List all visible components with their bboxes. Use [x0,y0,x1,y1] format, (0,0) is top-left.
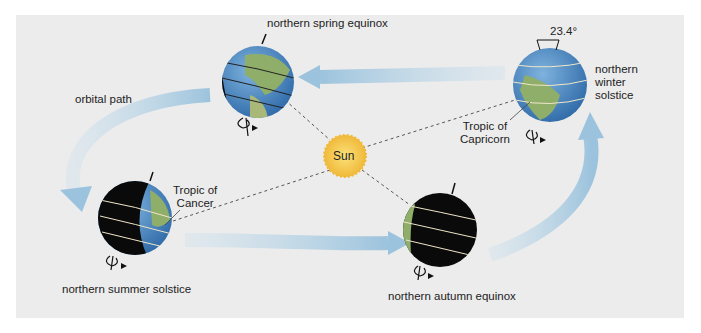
label-orbital-path: orbital path [75,93,132,106]
label-summer-solstice: northern summer solstice [62,283,191,296]
label-autumn-equinox: northern autumn equinox [388,290,516,303]
label-tropic-cancer: Tropic of Cancer [173,184,217,210]
label-sun: Sun [333,149,354,163]
globe-summer-icon [98,172,180,270]
globe-spring-icon [210,34,294,136]
label-tilt-angle: 23.4° [550,25,577,38]
label-tropic-capricorn: Tropic of Capricorn [460,120,510,146]
globe-autumn-icon [403,183,477,280]
label-winter-solstice: northern winter solstice [595,63,638,102]
label-spring-equinox: northern spring equinox [267,17,388,30]
